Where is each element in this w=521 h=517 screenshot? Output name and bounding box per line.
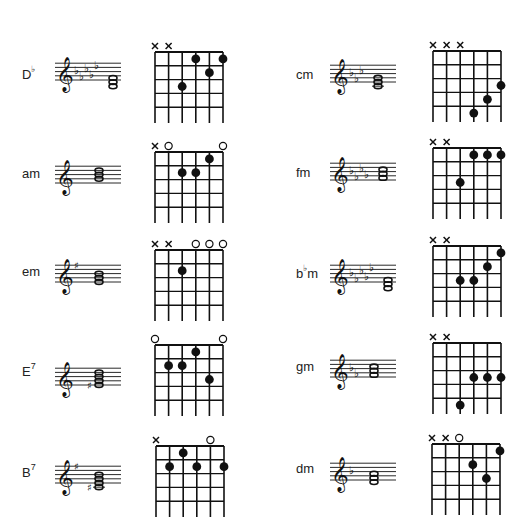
fretboard-svg [427,430,505,517]
chord-label: B7 [22,464,36,480]
treble-clef-icon: 𝄞 [56,159,74,196]
fretboard-svg [150,331,228,422]
fretboard-diagram [151,432,229,517]
treble-clef-icon: 𝄞 [331,258,349,295]
treble-clef-icon: 𝄞 [331,456,349,493]
whole-note-icon [370,364,378,369]
flat-icon: ♭ [354,367,359,380]
chord-root: B [22,465,31,480]
staff-svg: 𝄞♭♭♭ [330,52,396,98]
finger-dot-icon [220,462,229,471]
fretboard-svg [150,236,228,327]
chord-root: E [22,364,31,379]
open-string-icon [206,240,213,247]
open-string-icon [456,434,463,441]
muted-string-icon [429,435,435,441]
fretboard-diagram [428,329,506,420]
chord-dm: dm 𝄞♭ [0,0,260,100]
open-string-icon [219,335,226,342]
muted-string-icon [444,334,450,340]
flat-icon: ♭ [349,464,354,477]
staff-svg: 𝄞♭♭♭♭♭ [330,252,396,298]
finger-dot-icon [205,375,214,384]
chord-label: cm [296,67,313,82]
chord-root: am [22,166,40,181]
finger-dot-icon [179,449,188,458]
staff-svg: 𝄞♯♯ [55,453,121,499]
music-staff: 𝄞♭ [330,450,396,496]
sharp-icon: ♯ [87,380,92,391]
music-staff: 𝄞♯ [55,355,121,401]
finger-dot-icon [192,462,201,471]
finger-dot-icon [469,151,478,160]
treble-clef-icon: 𝄞 [331,156,349,193]
chord-root: gm [296,359,314,374]
open-string-icon [192,240,199,247]
finger-dot-icon [469,109,478,118]
finger-dot-icon [468,460,477,469]
fretboard-diagram [150,138,228,229]
finger-dot-icon [164,361,173,370]
fretboard-svg [428,134,506,225]
treble-clef-icon: 𝄞 [56,258,74,295]
muted-string-icon [444,237,450,243]
muted-string-icon [430,237,436,243]
finger-dot-icon [496,447,505,456]
chord-extension: 7 [31,361,36,371]
finger-dot-icon [456,401,465,410]
muted-string-icon [443,435,449,441]
fretboard-svg [428,232,506,323]
fretboard-svg [150,138,228,229]
finger-dot-icon [483,151,492,160]
muted-string-icon [166,241,172,247]
treble-clef-icon: 𝄞 [331,58,349,95]
finger-dot-icon [483,373,492,382]
treble-clef-icon: 𝄞 [331,353,349,390]
finger-dot-icon [456,178,465,187]
staff-svg: 𝄞♯ [55,252,121,298]
flat-sign: ♭ [303,263,307,273]
muted-string-icon [444,42,450,48]
chord-root: fm [296,165,310,180]
fretboard-diagram [427,430,505,517]
music-staff: 𝄞♭♭ [330,347,396,393]
sharp-icon: ♯ [74,260,79,271]
treble-clef-icon: 𝄞 [56,459,74,496]
muted-string-icon [152,143,158,149]
chord-label: dm [296,461,314,476]
flat-icon: ♭ [369,261,374,274]
fretboard-diagram [428,232,506,323]
open-string-icon [219,240,226,247]
staff-svg: 𝄞♭♭♭♭ [330,150,396,196]
chord-label: E7 [22,363,36,379]
fretboard-diagram [150,236,228,327]
muted-string-icon [153,437,159,443]
fretboard-diagram [428,134,506,225]
whole-note-icon [384,278,392,283]
finger-dot-icon [469,276,478,285]
chord-quality: m [307,266,318,281]
flat-icon: ♭ [359,64,364,77]
fretboard-svg [151,432,229,517]
fretboard-svg [428,37,506,128]
music-staff: 𝄞 [55,153,121,199]
finger-dot-icon [497,373,506,382]
finger-dot-icon [497,249,506,258]
chord-label: b♭m [296,265,318,281]
muted-string-icon [430,139,436,145]
fretboard-diagram [428,37,506,128]
chord-label: fm [296,165,310,180]
finger-dot-icon [456,276,465,285]
music-staff: 𝄞♯ [55,252,121,298]
sharp-icon: ♯ [74,461,79,472]
finger-dot-icon [497,81,506,90]
flat-icon: ♭ [364,168,369,181]
chord-label: em [22,264,40,279]
open-string-icon [151,335,158,342]
whole-note-icon [370,471,378,476]
finger-dot-icon [178,168,187,177]
finger-dot-icon [191,168,200,177]
open-string-icon [165,142,172,149]
open-string-icon [219,142,226,149]
music-staff: 𝄞♭♭♭ [330,52,396,98]
